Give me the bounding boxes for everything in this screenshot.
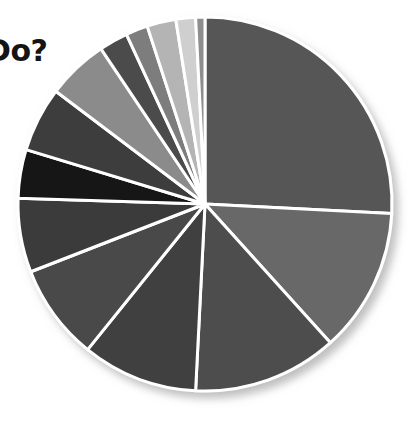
pie-slice[interactable] (205, 17, 392, 213)
pie-chart (0, 0, 411, 422)
pie-slices-group (18, 17, 392, 391)
chart-canvas: Do? (0, 0, 411, 422)
